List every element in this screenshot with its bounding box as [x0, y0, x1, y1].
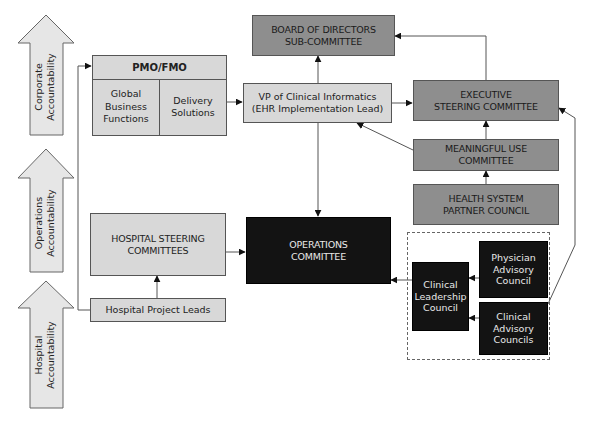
operations-accountability-label: Operations Accountability — [33, 178, 59, 268]
hospital-accountability-label: Hospital Accountability — [33, 310, 59, 400]
operations-committee-box: OPERATIONS COMMITTEE — [246, 217, 391, 284]
pmo-fmo-title: PMO/FMO — [93, 56, 226, 80]
pmo-fmo-box: PMO/FMO Global Business Functions Delive… — [92, 55, 227, 136]
clinical-leadership-council-box: Clinical Leadership Council — [412, 262, 469, 331]
connector-executive-to-board — [395, 36, 486, 80]
board-of-directors-box: BOARD OF DIRECTORS SUB-COMMITTEE — [252, 15, 395, 56]
corporate-accountability-label: Corporate Accountability — [33, 42, 59, 132]
hospital-steering-committees-box: HOSPITAL STEERING COMMITTEES — [90, 213, 226, 276]
executive-steering-committee-box: EXECUTIVE STEERING COMMITTEE — [413, 80, 559, 121]
clinical-advisory-councils-box: Clinical Advisory Councils — [479, 302, 548, 355]
delivery-solutions: Delivery Solutions — [160, 79, 226, 135]
hospital-project-leads-box: Hospital Project Leads — [90, 298, 226, 322]
global-business-functions: Global Business Functions — [93, 79, 160, 135]
physician-advisory-council-box: Physician Advisory Council — [479, 241, 548, 298]
health-system-partner-council-box: HEALTH SYSTEM PARTNER COUNCIL — [413, 184, 559, 225]
connector-mu-to-vp — [357, 123, 413, 150]
vp-clinical-informatics-box: VP of Clinical Informatics (EHR Implemen… — [243, 83, 392, 123]
meaningful-use-committee-box: MEANINGFUL USE COMMITTEE — [413, 139, 559, 171]
